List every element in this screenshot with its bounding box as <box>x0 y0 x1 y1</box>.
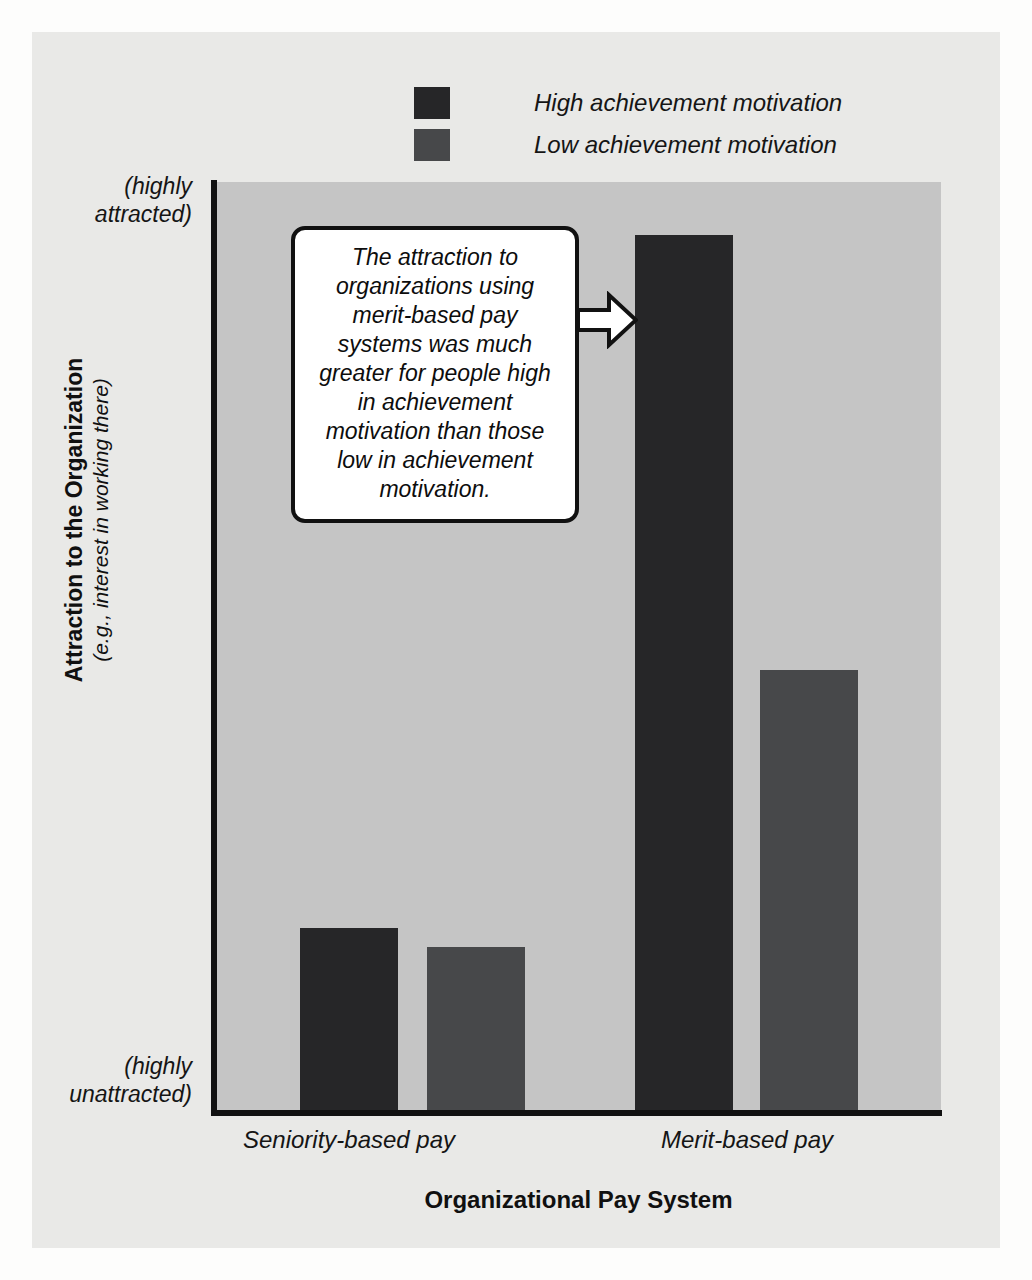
x-axis-category-seniority: Seniority-based pay <box>189 1126 509 1154</box>
figure-root: High achievement motivation Low achievem… <box>0 0 1032 1280</box>
y-axis-title-main: Attraction to the Organization <box>60 240 88 800</box>
legend-label-high: High achievement motivation <box>534 89 842 117</box>
y-axis-title: Attraction to the Organization (e.g., in… <box>60 240 120 800</box>
y-axis-anchor-bottom: (highly unattracted) <box>42 1052 192 1108</box>
y-axis-anchor-top: (highly attracted) <box>42 172 192 228</box>
x-axis-category-merit: Merit-based pay <box>587 1126 907 1154</box>
bar-seniority-high <box>300 928 398 1112</box>
y-axis-anchor-bottom-line2: unattracted) <box>42 1080 192 1108</box>
legend-item-high: High achievement motivation <box>414 82 934 124</box>
callout-box: The attraction to organizations using me… <box>291 226 579 523</box>
legend-swatch-high-icon <box>414 87 450 119</box>
y-axis-line <box>211 180 217 1116</box>
y-axis-title-sub: (e.g., interest in working there) <box>88 240 114 800</box>
y-axis-anchor-top-line2: attracted) <box>42 200 192 228</box>
y-axis-anchor-top-line1: (highly <box>42 172 192 200</box>
legend-item-low: Low achievement motivation <box>414 124 934 166</box>
callout-arrow-right-icon <box>576 291 638 349</box>
chart-legend: High achievement motivation Low achievem… <box>414 82 934 166</box>
x-axis-line <box>211 1110 942 1116</box>
x-axis-title: Organizational Pay System <box>216 1186 941 1214</box>
bar-merit-high <box>635 235 733 1112</box>
legend-label-low: Low achievement motivation <box>534 131 837 159</box>
y-axis-anchor-bottom-line1: (highly <box>42 1052 192 1080</box>
legend-swatch-low-icon <box>414 129 450 161</box>
bar-merit-low <box>760 670 858 1112</box>
bar-seniority-low <box>427 947 525 1112</box>
